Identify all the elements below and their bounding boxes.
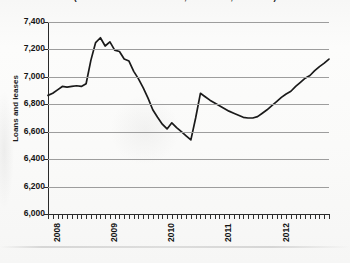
y-axis-tick-label: 7,000 — [5, 71, 45, 81]
x-axis-year-label: 2010 — [166, 223, 176, 242]
line-chart: (total bank loans and leases, 2008–2012,… — [0, 0, 350, 263]
y-axis-tick-label: 6,200 — [5, 181, 45, 191]
y-axis-tick-label: 6,400 — [5, 153, 45, 163]
x-axis-year-label: 2009 — [109, 223, 119, 242]
x-axis-year-label: 2011 — [223, 224, 233, 242]
y-axis-tick-label: 7,400 — [5, 16, 45, 26]
y-axis-tick-label: 7,200 — [5, 43, 45, 53]
x-axis-year-label: 2008 — [52, 223, 62, 242]
y-axis-tick-label: 6,000 — [5, 208, 45, 218]
y-axis-tick-labels: 7,4007,2007,0006,8006,6006,4006,2006,000 — [5, 0, 45, 263]
y-axis-tick-label: 6,600 — [5, 126, 45, 136]
x-axis-year-label: 2012 — [281, 223, 291, 242]
x-axis-year-labels: 20082009201020112012 — [48, 0, 338, 263]
y-axis-tick-label: 6,800 — [5, 98, 45, 108]
